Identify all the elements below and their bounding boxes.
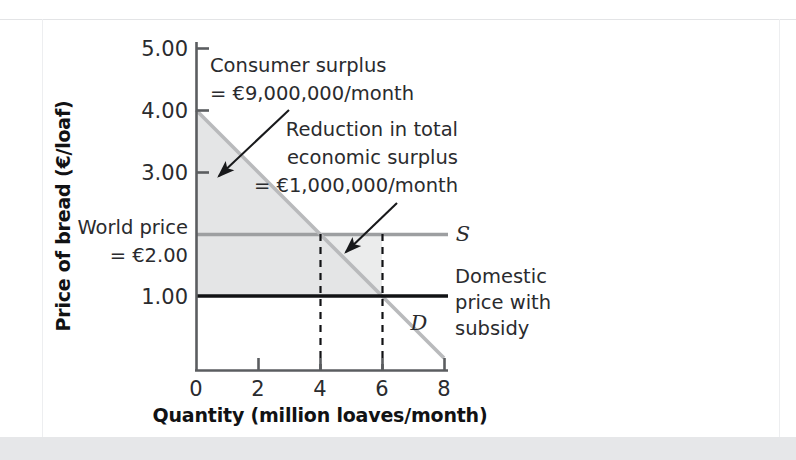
reduction-label-line2: economic surplus — [287, 146, 458, 169]
y-tick-label-5: 5.00 — [141, 37, 188, 61]
economics-supply-demand-chart: 5.00 4.00 3.00 1.00 0 2 4 6 8 World pric… — [0, 0, 796, 437]
x-tick-label-8: 8 — [437, 377, 450, 401]
domestic-price-label-line2: price with — [455, 291, 551, 314]
world-price-label-line2: = €2.00 — [110, 244, 188, 267]
x-tick-label-0: 0 — [189, 377, 202, 401]
y-tick-label-4: 4.00 — [141, 99, 188, 123]
domestic-price-label-line3: subsidy — [455, 317, 529, 340]
y-tick-label-3: 3.00 — [141, 161, 188, 185]
domestic-price-label-line1: Domestic — [455, 265, 547, 288]
bottom-band — [0, 437, 796, 460]
x-tick-label-6: 6 — [375, 377, 388, 401]
x-tick-label-2: 2 — [251, 377, 264, 401]
consumer-surplus-label-line1: Consumer surplus — [210, 54, 386, 77]
supply-curve-label: S — [456, 222, 470, 246]
world-price-label-line1: World price — [77, 216, 188, 239]
reduction-label-line1: Reduction in total — [286, 118, 458, 141]
x-tick-label-4: 4 — [313, 377, 326, 401]
reduction-label-line3: = €1,000,000/month — [254, 174, 458, 197]
figure-panel: Price of bread (€/loaf) Quantity (millio… — [0, 0, 796, 437]
y-tick-label-1: 1.00 — [141, 285, 188, 309]
demand-curve-label: D — [410, 311, 428, 335]
consumer-surplus-label-line2: = €9,000,000/month — [210, 82, 414, 105]
